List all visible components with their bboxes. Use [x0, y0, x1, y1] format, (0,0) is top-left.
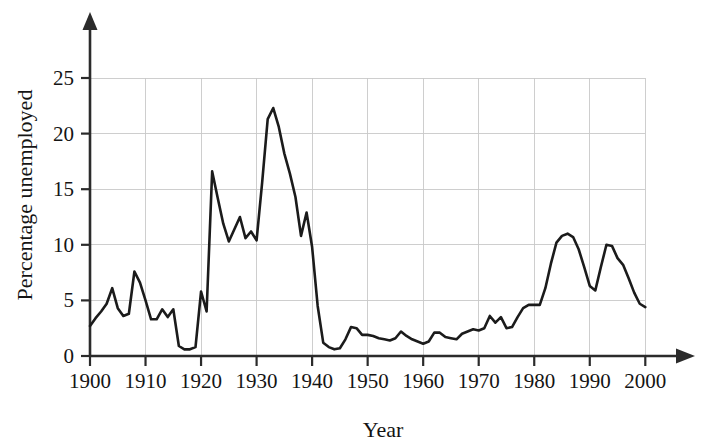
x-tick-label: 1980 — [513, 369, 555, 393]
y-tick-label: 5 — [64, 288, 75, 312]
x-tick-label: 1900 — [69, 369, 111, 393]
x-axis-title: Year — [363, 417, 404, 442]
x-tick-label: 1940 — [291, 369, 333, 393]
x-tick-label: 1930 — [236, 369, 278, 393]
x-axis-tick-labels: 1900191019201930194019501960197019801990… — [69, 369, 666, 393]
x-tick-label: 1910 — [125, 369, 167, 393]
x-tick-label: 2000 — [624, 369, 666, 393]
x-tick-label: 1960 — [402, 369, 444, 393]
y-tick-label: 10 — [53, 233, 74, 257]
y-tick-label: 0 — [64, 344, 75, 368]
y-axis-arrowhead — [83, 12, 98, 30]
unemployment-line-chart: 0510152025 19001910192019301940195019601… — [0, 0, 710, 446]
chart-figure: 0510152025 19001910192019301940195019601… — [0, 0, 710, 446]
x-tick-label: 1920 — [180, 369, 222, 393]
y-axis-ticks — [81, 78, 90, 356]
x-tick-label: 1990 — [569, 369, 611, 393]
x-tick-label: 1970 — [458, 369, 500, 393]
x-axis-ticks — [90, 356, 645, 366]
y-tick-label: 20 — [53, 122, 74, 146]
x-tick-label: 1950 — [347, 369, 389, 393]
y-axis-tick-labels: 0510152025 — [53, 66, 74, 368]
y-tick-label: 15 — [53, 177, 74, 201]
y-axis-title: Percentage unemployed — [12, 90, 37, 301]
y-tick-label: 25 — [53, 66, 74, 90]
x-axis-arrowhead — [676, 349, 695, 364]
